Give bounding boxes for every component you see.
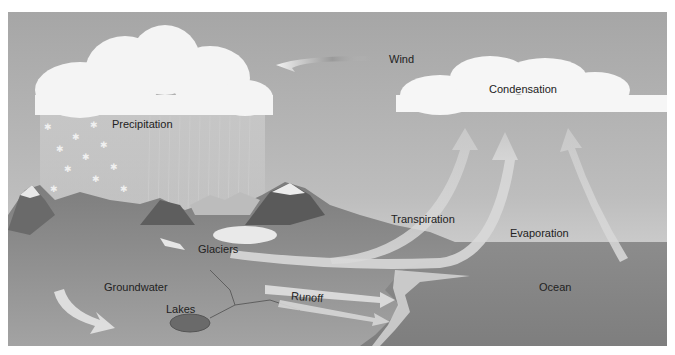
label-ocean: Ocean bbox=[539, 282, 571, 293]
label-condensation: Condensation bbox=[489, 84, 557, 95]
svg-text:✱: ✱ bbox=[92, 174, 100, 184]
svg-text:✱: ✱ bbox=[56, 144, 64, 154]
svg-text:✱: ✱ bbox=[110, 162, 118, 172]
svg-text:✱: ✱ bbox=[44, 122, 52, 132]
svg-text:✱: ✱ bbox=[100, 140, 108, 150]
lake bbox=[170, 314, 210, 332]
label-glaciers: Glaciers bbox=[198, 244, 238, 255]
glacier bbox=[213, 226, 277, 244]
svg-text:✱: ✱ bbox=[64, 164, 72, 174]
svg-text:✱: ✱ bbox=[120, 184, 128, 194]
label-transpiration: Transpiration bbox=[391, 214, 455, 225]
label-lakes: Lakes bbox=[166, 304, 195, 315]
label-groundwater: Groundwater bbox=[104, 282, 168, 293]
label-wind: Wind bbox=[389, 54, 414, 65]
label-evaporation: Evaporation bbox=[510, 228, 569, 239]
water-cycle-diagram: ✱✱✱ ✱✱✱ ✱✱✱ ✱✱✱ bbox=[0, 0, 675, 355]
svg-text:✱: ✱ bbox=[50, 184, 58, 194]
label-precipitation: Precipitation bbox=[112, 119, 173, 130]
svg-text:✱: ✱ bbox=[82, 152, 90, 162]
svg-text:✱: ✱ bbox=[90, 120, 98, 130]
svg-text:✱: ✱ bbox=[72, 132, 80, 142]
